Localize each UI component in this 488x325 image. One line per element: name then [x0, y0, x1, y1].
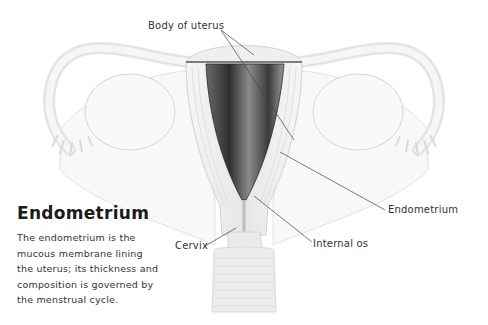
label-cervix: Cervix: [175, 240, 208, 251]
label-body-of-uterus: Body of uterus: [148, 20, 224, 31]
label-internal-os: Internal os: [313, 238, 368, 249]
label-endometrium: Endometrium: [388, 204, 458, 215]
info-line: The endometrium is the: [17, 230, 157, 246]
info-description: The endometrium is the mucous membrane l…: [17, 230, 157, 308]
info-line: the uterus; its thickness and: [17, 261, 157, 277]
info-line: mucous membrane lining: [17, 246, 157, 262]
info-line: composition is governed by: [17, 277, 157, 293]
cervix-vagina: [212, 232, 276, 312]
info-title: Endometrium: [17, 203, 149, 223]
info-line: the menstrual cycle.: [17, 292, 157, 308]
